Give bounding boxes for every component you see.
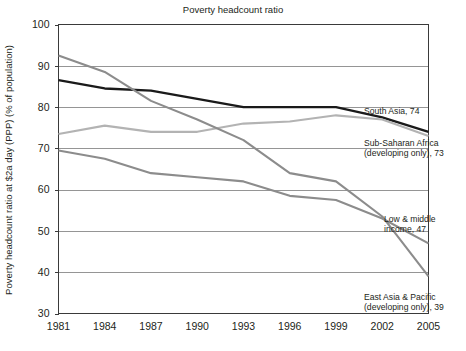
- y-tick-labels: 30405060708090100: [32, 18, 50, 319]
- x-tick-labels: 198119841987199019931996199920022005: [47, 320, 441, 332]
- y-tick-label-50: 50: [38, 225, 50, 237]
- data-line-1: [59, 115, 429, 136]
- series-label-south-asia: South Asia, 74: [364, 106, 420, 116]
- gridlines: [59, 67, 429, 273]
- series-label-east-asia-line1: East Asia & Pacific: [364, 292, 436, 302]
- y-tick-label-100: 100: [32, 18, 50, 30]
- x-tick-label-1981: 1981: [47, 320, 71, 332]
- series-label-sub-saharan-line2: (developing only), 73: [364, 148, 444, 158]
- series-annotations: South Asia, 74 Sub-Saharan Africa (devel…: [364, 106, 444, 312]
- x-tick-label-1984: 1984: [93, 320, 117, 332]
- plot-frame: [59, 25, 429, 314]
- y-tick-label-40: 40: [38, 266, 50, 278]
- y-axis-label: Poverty headcount ratio at $2a day (PPP)…: [3, 45, 14, 295]
- chart-svg: Poverty headcount ratio Poverty headcoun…: [0, 0, 466, 351]
- x-tick-label-1999: 1999: [324, 320, 348, 332]
- x-tick-label-2005: 2005: [417, 320, 441, 332]
- y-tick-label-90: 90: [38, 60, 50, 72]
- data-line-2: [59, 150, 429, 243]
- y-tick-marks: [55, 26, 59, 315]
- x-tick-label-2002: 2002: [371, 320, 395, 332]
- series-label-east-asia-line2: (developing only), 39: [364, 302, 444, 312]
- chart-title: Poverty headcount ratio: [183, 4, 283, 15]
- x-tick-label-1993: 1993: [232, 320, 256, 332]
- x-tick-label-1996: 1996: [278, 320, 302, 332]
- series-label-low-middle-line1: Low & middle: [384, 214, 436, 224]
- series-label-low-middle-line2: income, 47: [384, 224, 426, 234]
- series-label-sub-saharan-line1: Sub-Saharan Africa: [364, 138, 439, 148]
- y-tick-label-70: 70: [38, 142, 50, 154]
- poverty-headcount-chart: Poverty headcount ratio Poverty headcoun…: [0, 0, 466, 351]
- y-tick-label-60: 60: [38, 183, 50, 195]
- y-tick-label-80: 80: [38, 101, 50, 113]
- data-series-group: [59, 55, 429, 276]
- x-tick-label-1987: 1987: [139, 320, 163, 332]
- x-tick-label-1990: 1990: [186, 320, 210, 332]
- y-tick-label-30: 30: [38, 307, 50, 319]
